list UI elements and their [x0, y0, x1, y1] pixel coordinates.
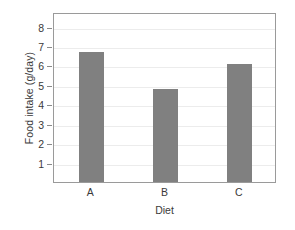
y-axis-tick-label: 4 [30, 99, 44, 111]
y-axis-tick-mark [47, 47, 52, 48]
x-axis-tick-label: B [161, 186, 168, 198]
bars-layer [54, 14, 275, 182]
y-axis-tick-mark [47, 105, 52, 106]
y-axis-tick-label: 1 [30, 158, 44, 170]
y-axis-tick-mark [47, 28, 52, 29]
y-axis-tick-mark [47, 86, 52, 87]
y-axis-tick-label: 7 [30, 41, 44, 53]
x-axis-tick-label: A [87, 186, 94, 198]
y-axis-tick-mark [47, 125, 52, 126]
y-axis-tick-label: 2 [30, 138, 44, 150]
bar [79, 52, 104, 182]
y-axis-tick-label: 8 [30, 22, 44, 34]
x-axis-title: Diet [53, 204, 276, 216]
y-axis-tick-mark [47, 164, 52, 165]
bar [153, 89, 178, 182]
y-axis-tick-label: 5 [30, 80, 44, 92]
y-axis-tick-mark [47, 144, 52, 145]
y-axis-tick-label: 6 [30, 60, 44, 72]
y-axis-tick-label: 3 [30, 119, 44, 131]
bar-chart-figure: Food intake (g/day) 12345678 ABC Diet [0, 0, 295, 230]
bar [227, 64, 252, 183]
plot-area [53, 13, 276, 183]
x-axis-tick-label: C [235, 186, 243, 198]
y-axis-tick-labels: 12345678 [30, 17, 44, 183]
y-axis-tick-mark [47, 66, 52, 67]
x-axis-tick-labels: ABC [53, 186, 276, 202]
